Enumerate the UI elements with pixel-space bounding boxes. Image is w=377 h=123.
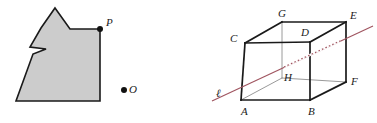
vertex-label-E: E [349,9,357,21]
point-O-label: O [129,83,137,95]
point-P-dot [97,26,103,32]
vertex-label-A: A [240,105,248,117]
cube-edge-DE [310,22,346,42]
point-P-label: P [105,16,113,28]
cube-visible-edges [241,22,346,100]
point-O-dot [121,87,127,93]
vertex-label-D: D [300,26,309,38]
shaded-polygon-svg: P O [0,0,188,123]
cube-edge-CD [245,42,310,43]
vertex-label-H: H [283,71,293,83]
geometry-figure-page: P O ABCDEFGH ℓ [0,0,377,123]
cube-edge-BF [310,82,346,100]
vertex-label-G: G [278,7,286,19]
shaded-polygon [16,8,100,101]
cube-edge-AC [241,43,245,100]
cube-edge-HA [241,78,282,100]
cube-hidden-edges [241,22,346,100]
figure-right-cube-with-line: ABCDEFGH ℓ [188,0,377,123]
cube-edge-CG [245,22,282,43]
vertex-label-F: F [350,75,358,87]
vertex-label-C: C [230,32,238,44]
vertex-label-B: B [308,105,315,117]
cube-diagram-svg: ABCDEFGH ℓ [188,0,377,123]
figure-left-shaded-polygon: P O [0,0,188,123]
line-l-label: ℓ [216,87,221,99]
